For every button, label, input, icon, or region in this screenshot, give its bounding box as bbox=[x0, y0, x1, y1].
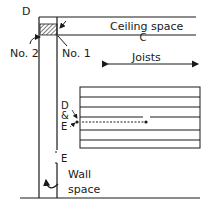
joists-box bbox=[80, 87, 200, 148]
label-e-bottom: E bbox=[61, 153, 67, 164]
no1-pointer-icon bbox=[58, 36, 67, 46]
top-plate-hatch bbox=[40, 24, 57, 35]
label-wall: Wall bbox=[68, 168, 91, 181]
e-arrow-icon bbox=[70, 123, 75, 127]
label-space: space bbox=[68, 183, 101, 196]
label-d-top: D bbox=[22, 5, 30, 18]
label-ceiling-space: Ceiling space bbox=[110, 20, 184, 33]
wall-space-arrow-icon bbox=[46, 180, 58, 188]
bore-point-start bbox=[75, 120, 78, 123]
label-de-e: E bbox=[61, 121, 67, 132]
label-joists: Joists bbox=[131, 51, 161, 64]
label-no2: No. 2 bbox=[10, 47, 39, 60]
label-de-amp: & bbox=[61, 110, 69, 121]
label-c: C bbox=[140, 32, 147, 43]
corner-arrow-icon bbox=[60, 21, 66, 28]
label-no1: No. 1 bbox=[62, 47, 91, 60]
wall-ceiling-diagram: D Ceiling space C Joists No. 2 No. 1 D &… bbox=[0, 0, 214, 213]
bore-point bbox=[144, 120, 147, 123]
d-e-arrow-icon bbox=[72, 110, 77, 118]
